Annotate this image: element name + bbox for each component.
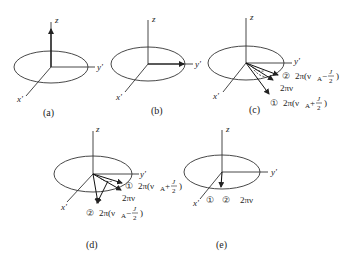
svg-text:2: 2 — [133, 214, 137, 222]
z-axis-label-d: z — [95, 124, 100, 134]
svg-text:−: − — [126, 208, 131, 218]
svg-text:J: J — [329, 68, 333, 76]
label-e-mid: 2πν — [240, 195, 253, 205]
svg-text:+: + — [310, 98, 315, 108]
svg-text:2: 2 — [329, 77, 333, 85]
svg-text:2π(ν: 2π(ν — [138, 181, 154, 191]
svg-text:2π(ν: 2π(ν — [295, 71, 311, 81]
caption-c: (c) — [249, 104, 260, 116]
y-axis-label-a: y' — [96, 62, 104, 72]
svg-text:): ) — [336, 71, 339, 81]
svg-text:+: + — [165, 181, 170, 191]
x-axis-label-d: x' — [60, 202, 68, 212]
svg-text:J: J — [172, 178, 176, 186]
caption-b: (b) — [151, 105, 163, 117]
y-axis-label-c: y' — [293, 56, 301, 66]
z-axis-label-e: z — [225, 124, 230, 134]
svg-text:−: − — [322, 71, 327, 81]
panel-e — [184, 130, 268, 199]
panel-b — [111, 20, 193, 92]
svg-text:①: ① — [125, 181, 133, 191]
label-c-1: ① 2π(ν A + J 2 ) — [270, 95, 327, 112]
label-e-2: ② — [222, 195, 230, 205]
y-axis-label-b: y' — [194, 59, 202, 69]
label-d-mid: 2πν — [122, 193, 135, 203]
z-axis-label-b: z — [151, 14, 156, 24]
z-axis-label-a: z — [54, 15, 59, 25]
svg-text:): ) — [179, 181, 182, 191]
svg-text:②: ② — [282, 71, 290, 81]
x-axis-label-b: x' — [115, 92, 123, 102]
caption-e: (e) — [216, 239, 227, 251]
caption-a: (a) — [43, 107, 54, 119]
svg-text:J: J — [133, 205, 137, 213]
svg-text:2: 2 — [317, 104, 321, 112]
panel-a — [14, 22, 95, 96]
svg-text:J: J — [317, 95, 321, 103]
y-axis-label-e: y' — [270, 167, 278, 177]
svg-text:): ) — [324, 98, 327, 108]
nmr-vector-diagram: z y' x' (a) z y' x' (b) z y' x' ② 2π(ν A… — [0, 0, 349, 259]
svg-text:2: 2 — [172, 187, 176, 195]
x-axis-label-c: x' — [212, 91, 220, 101]
x-axis-label-a: x' — [16, 94, 24, 104]
svg-text:): ) — [140, 208, 143, 218]
svg-text:①: ① — [270, 98, 278, 108]
label-d-2: ② 2π(ν A − J 2 ) — [86, 205, 143, 222]
caption-d: (d) — [86, 239, 98, 251]
x-axis-label-e: x' — [192, 198, 200, 208]
svg-text:2π(ν: 2π(ν — [99, 208, 115, 218]
label-e-1: ① — [206, 195, 214, 205]
svg-text:2π(ν: 2π(ν — [283, 98, 299, 108]
y-axis-label-d: y' — [139, 169, 147, 179]
svg-text:②: ② — [86, 208, 94, 218]
label-c-mid: 2πν — [280, 83, 293, 93]
z-axis-label-c: z — [249, 12, 254, 22]
